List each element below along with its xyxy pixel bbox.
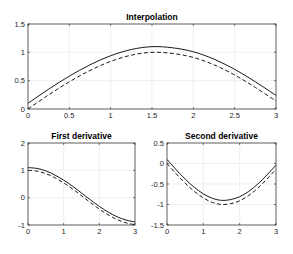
axes-first-derivative: 0123-1012 First derivative xyxy=(18,131,137,236)
x-tick-label: 3 xyxy=(274,111,278,120)
x-tick-label: 2 xyxy=(97,227,101,236)
y-tick-label: 1.5 xyxy=(15,20,25,29)
x-tick-label: 1.5 xyxy=(147,111,157,120)
axes-title: Interpolation xyxy=(126,12,177,22)
axes-second-derivative: 0123-1.5-1-0.500.5 Second derivative xyxy=(151,131,278,236)
y-tick-label: -1 xyxy=(157,200,164,209)
y-tick-label: -1.5 xyxy=(151,221,164,230)
x-tick-label: 2 xyxy=(191,111,195,120)
y-tick-label: 0.5 xyxy=(154,139,164,148)
y-tick-label: 0 xyxy=(160,159,164,168)
x-tick-label: 0 xyxy=(26,227,30,236)
x-tick-label: 1 xyxy=(201,227,205,236)
x-tick-label: 3 xyxy=(274,227,278,236)
x-tick-label: 1 xyxy=(62,227,66,236)
plot-area xyxy=(28,143,135,225)
figure: 00.511.522.5300.511.5 Interpolation 0123… xyxy=(0,0,293,254)
y-tick-label: -0.5 xyxy=(151,180,164,189)
y-tick-label: 2 xyxy=(21,139,25,148)
y-tick-label: 0.5 xyxy=(15,76,25,85)
x-tick-label: 2 xyxy=(238,227,242,236)
y-tick-label: 1 xyxy=(21,48,25,57)
x-tick-label: 0.5 xyxy=(64,111,74,120)
axes-title: First derivative xyxy=(51,131,112,141)
x-tick-label: 0 xyxy=(165,227,169,236)
x-tick-label: 0 xyxy=(26,111,30,120)
y-tick-label: 0 xyxy=(21,105,25,114)
x-tick-label: 3 xyxy=(133,227,137,236)
y-tick-label: 1 xyxy=(21,166,25,175)
y-tick-label: 0 xyxy=(21,193,25,202)
y-tick-label: -1 xyxy=(18,221,25,230)
x-tick-label: 2.5 xyxy=(229,111,239,120)
axes-interpolation: 00.511.522.5300.511.5 Interpolation xyxy=(15,12,279,120)
x-tick-label: 1 xyxy=(109,111,113,120)
axes-title: Second derivative xyxy=(185,131,258,141)
